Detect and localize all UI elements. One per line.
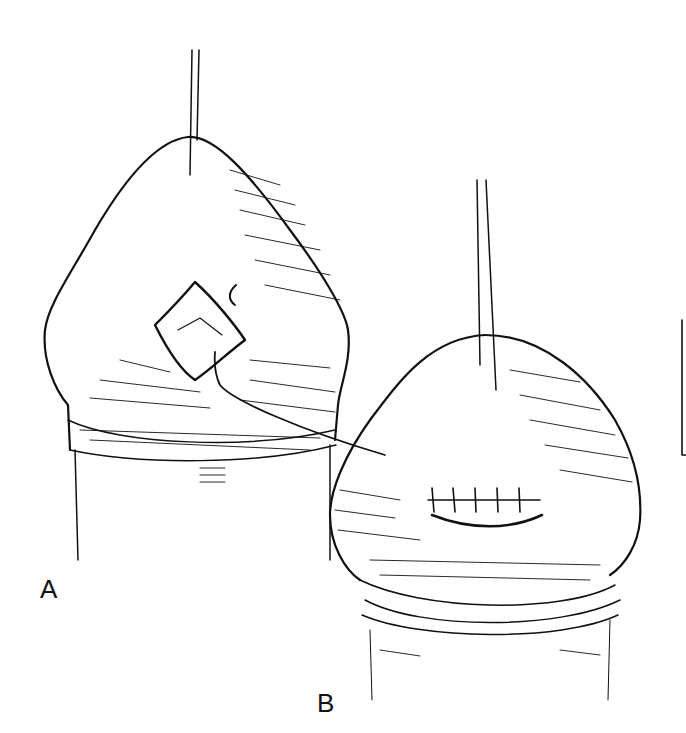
illustration-canvas: A B [0, 0, 686, 733]
panel-label-b: B [317, 688, 334, 719]
panel-a-drawing [45, 50, 385, 560]
scale-bar [682, 320, 686, 455]
line-drawing [0, 0, 686, 733]
panel-b-drawing [330, 180, 640, 700]
panel-label-a: A [40, 574, 57, 605]
